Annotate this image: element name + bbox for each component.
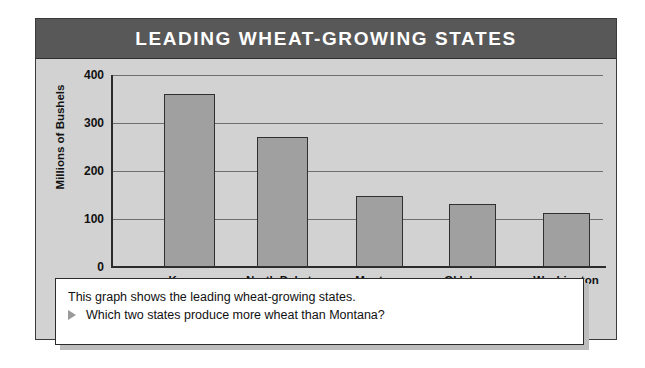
- bar-oklahoma: [449, 204, 496, 267]
- bars-layer: [111, 75, 603, 267]
- chart-title: LEADING WHEAT-GROWING STATES: [135, 28, 517, 50]
- chart-title-band: LEADING WHEAT-GROWING STATES: [36, 19, 616, 59]
- y-tick-label-400: 400: [66, 68, 104, 82]
- y-tick-label-100: 100: [66, 212, 104, 226]
- bar-montana: [356, 196, 403, 267]
- caption-line-1: This graph shows the leading wheat-growi…: [68, 288, 583, 306]
- y-tick-label-300: 300: [66, 116, 104, 130]
- bar-north-dakota: [257, 137, 308, 267]
- caption-line-2-text: Which two states produce more wheat than…: [86, 306, 385, 324]
- caption-line-2-row: Which two states produce more wheat than…: [68, 306, 583, 324]
- plot-area: Kansas North Dakota Montana Oklahoma Was…: [111, 75, 603, 267]
- caption-box: This graph shows the leading wheat-growi…: [55, 278, 584, 345]
- triangle-right-icon: [68, 310, 76, 320]
- y-axis-title: Millions of Bushels: [54, 67, 66, 207]
- y-tick-label-200: 200: [66, 164, 104, 178]
- y-tick-label-0: 0: [66, 260, 104, 274]
- bar-washington: [543, 213, 590, 267]
- bar-kansas: [164, 94, 215, 267]
